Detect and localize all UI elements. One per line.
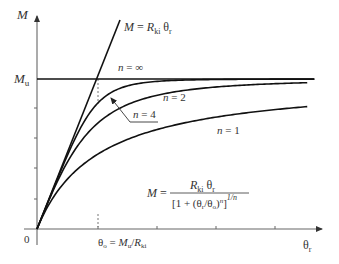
model-formula: M = Rki θr [1 + (θr/θo)n]1/n bbox=[146, 178, 249, 211]
formula-denominator: [1 + (θr/θo)n]1/n bbox=[172, 193, 237, 211]
curve-label-n-4: n = 4 bbox=[133, 108, 156, 120]
formula-numerator: Rki θr bbox=[189, 178, 215, 194]
elastic-line-label: M = Rki θr bbox=[123, 20, 172, 36]
curve-label-n-2: n = 2 bbox=[163, 91, 186, 103]
mu-label: Mu bbox=[13, 71, 30, 88]
axes bbox=[24, 16, 322, 245]
theta-o-label: θo = Mu/Rki bbox=[98, 236, 146, 250]
y-axis-label: M bbox=[16, 7, 29, 22]
curve-label-n-inf: n = ∞ bbox=[118, 61, 143, 73]
formula-lhs: M = bbox=[146, 186, 167, 200]
moment-rotation-diagram: M Mu 0 M = Rki θr n = ∞ n = 4 n = 2 n = … bbox=[0, 0, 339, 264]
curve-label-n-1: n = 1 bbox=[217, 124, 240, 136]
origin-label: 0 bbox=[24, 233, 30, 245]
x-axis-label: θr bbox=[303, 238, 312, 254]
